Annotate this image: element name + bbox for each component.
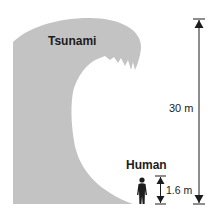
wave-height-arrow-icon — [193, 19, 205, 204]
tsunami-label: Tsunami — [48, 34, 96, 48]
human-label: Human — [126, 158, 167, 172]
human-height-arrow-icon — [155, 176, 166, 204]
wave-height-label: 30 m — [169, 102, 193, 114]
tsunami-scale-diagram: Tsunami 30 m Human 1.6 m — [0, 0, 219, 218]
human-height-label: 1.6 m — [166, 184, 192, 196]
human-silhouette-icon — [137, 177, 147, 204]
